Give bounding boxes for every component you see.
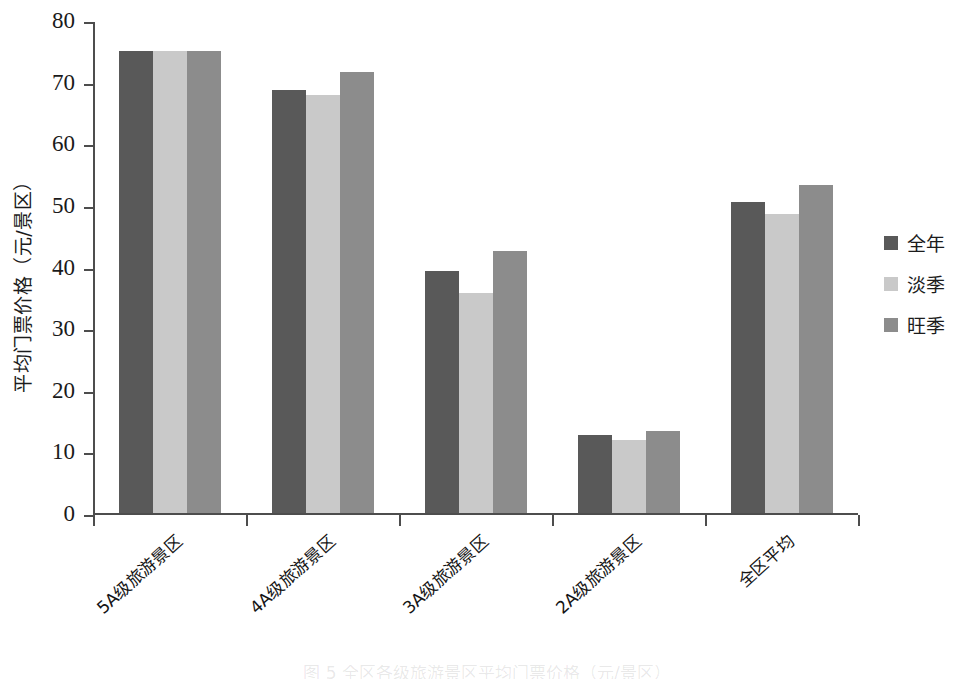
y-tick-60: 60 (84, 145, 94, 147)
bar-3-2[interactable] (646, 431, 680, 513)
bar-2-2[interactable] (493, 251, 527, 513)
x-tick-0 (93, 515, 95, 526)
bar-group-0 (119, 51, 221, 513)
bar-2-0[interactable] (425, 271, 459, 513)
legend-swatch-icon-1 (884, 277, 898, 291)
x-tick-3 (552, 515, 554, 526)
bar-4-0[interactable] (731, 202, 765, 513)
y-tick-label-80: 80 (52, 9, 75, 33)
y-tick-80: 80 (84, 22, 94, 24)
bar-2-1[interactable] (459, 293, 493, 513)
x-axis-label-0: 5A级旅游景区 (51, 528, 187, 654)
y-tick-label-70: 70 (52, 71, 75, 95)
bar-1-1[interactable] (306, 95, 340, 513)
bar-group-1 (272, 72, 374, 513)
chart-legend: 全年 淡季 旺季 (884, 222, 945, 345)
legend-item-1[interactable]: 淡季 (884, 263, 945, 304)
y-tick-label-30: 30 (52, 317, 75, 341)
y-tick-label-0: 0 (64, 502, 76, 526)
x-axis-label-1: 4A级旅游景区 (204, 528, 340, 654)
bar-3-1[interactable] (612, 440, 646, 513)
x-tick-2 (399, 515, 401, 526)
bar-0-1[interactable] (153, 51, 187, 513)
figure-caption: 图 5 全区各级旅游景区平均门票价格（元/景区） (0, 665, 974, 679)
x-axis-label-2: 3A级旅游景区 (357, 528, 493, 654)
y-tick-40: 40 (84, 269, 94, 271)
bar-1-0[interactable] (272, 90, 306, 513)
y-tick-50: 50 (84, 207, 94, 209)
y-tick-10: 10 (84, 453, 94, 455)
y-tick-label-50: 50 (52, 194, 75, 218)
bar-3-0[interactable] (578, 435, 612, 513)
bar-group-4 (731, 185, 833, 513)
y-tick-label-40: 40 (52, 256, 75, 280)
y-tick-70: 70 (84, 84, 94, 86)
legend-item-0[interactable]: 全年 (884, 222, 945, 263)
legend-label-0: 全年 (907, 229, 945, 256)
x-axis-label-3: 2A级旅游景区 (510, 528, 646, 654)
x-tick-1 (246, 515, 248, 526)
bar-4-2[interactable] (799, 185, 833, 513)
y-tick-20: 20 (84, 392, 94, 394)
plot-area: 80706050403020100 (93, 22, 858, 515)
legend-item-2[interactable]: 旺季 (884, 304, 945, 345)
x-axis-label-4: 全区平均 (663, 528, 799, 654)
x-tick-4 (705, 515, 707, 526)
y-tick-label-20: 20 (52, 379, 75, 403)
y-tick-30: 30 (84, 330, 94, 332)
y-tick-label-10: 10 (52, 440, 75, 464)
legend-swatch-icon-0 (884, 236, 898, 250)
x-axis-line (93, 513, 858, 515)
legend-label-1: 淡季 (907, 270, 945, 297)
bar-0-0[interactable] (119, 51, 153, 513)
bar-1-2[interactable] (340, 72, 374, 513)
legend-label-2: 旺季 (907, 311, 945, 338)
bar-chart-figure: 平均门票价格（元/景区） 80706050403020100 5A级旅游景区4A… (0, 0, 974, 679)
bar-group-3 (578, 431, 680, 513)
bar-4-1[interactable] (765, 214, 799, 513)
x-tick-5 (858, 515, 860, 526)
bar-group-2 (425, 251, 527, 513)
legend-swatch-icon-2 (884, 318, 898, 332)
bar-0-2[interactable] (187, 51, 221, 513)
y-tick-label-60: 60 (52, 132, 75, 156)
y-axis-title: 平均门票价格（元/景区） (4, 22, 38, 542)
